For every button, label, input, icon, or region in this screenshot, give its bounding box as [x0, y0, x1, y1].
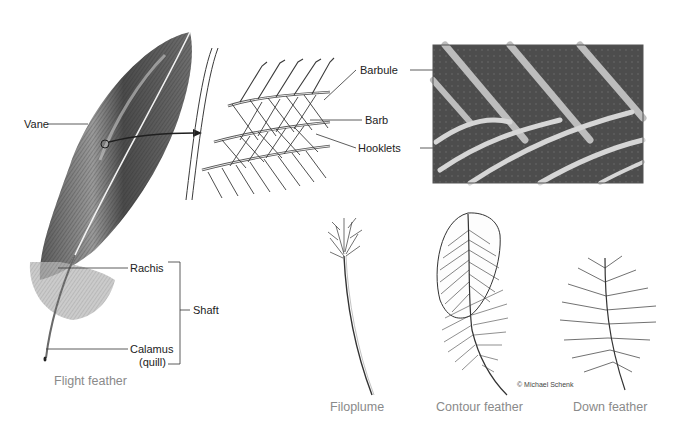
caption-flight-feather: Flight feather [54, 374, 127, 388]
caption-filoplume: Filoplume [330, 400, 384, 414]
feather-diagram: Vane Rachis Shaft Calamus (quill) Flight… [0, 0, 675, 429]
label-vane: Vane [24, 118, 49, 130]
contour-feather-illustration [437, 213, 508, 395]
caption-contour-feather: Contour feather [436, 400, 523, 414]
flight-feather-illustration [30, 32, 202, 362]
barb-detail-illustration [186, 48, 334, 200]
diagram-artwork [0, 0, 675, 429]
label-barbule: Barbule [360, 64, 398, 76]
label-rachis: Rachis [130, 262, 164, 274]
label-calamus: Calamus [130, 343, 173, 355]
down-feather-illustration [560, 256, 656, 390]
label-hooklets: Hooklets [358, 142, 401, 154]
label-quill: (quill) [139, 356, 166, 368]
copyright-credit: © Michael Schenk [517, 381, 574, 388]
filoplume-illustration [328, 218, 374, 395]
label-shaft: Shaft [193, 304, 219, 316]
caption-down-feather: Down feather [573, 400, 647, 414]
electron-micrograph [433, 45, 643, 183]
label-barb: Barb [365, 114, 388, 126]
